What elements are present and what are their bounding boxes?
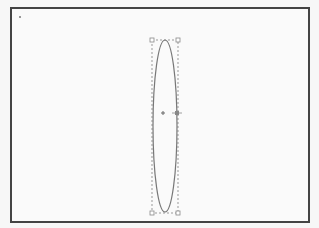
resize-handle-nw[interactable] xyxy=(150,38,154,42)
resize-handle-ne[interactable] xyxy=(176,38,180,42)
ellipse-shape[interactable] xyxy=(153,40,177,212)
resize-handle-sw[interactable] xyxy=(150,211,154,215)
shape-layer xyxy=(0,0,319,228)
rotation-handle-icon[interactable] xyxy=(172,111,182,115)
resize-handle-se[interactable] xyxy=(176,211,180,215)
center-marker-icon[interactable] xyxy=(161,111,165,115)
